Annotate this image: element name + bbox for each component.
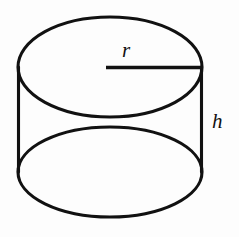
- cylinder-bottom-ellipse: [18, 127, 202, 217]
- radius-label: r: [122, 38, 131, 62]
- height-label: h: [212, 109, 223, 133]
- cylinder-figure-canvas: r h: [0, 0, 239, 237]
- cylinder-illustration: r h: [0, 0, 239, 237]
